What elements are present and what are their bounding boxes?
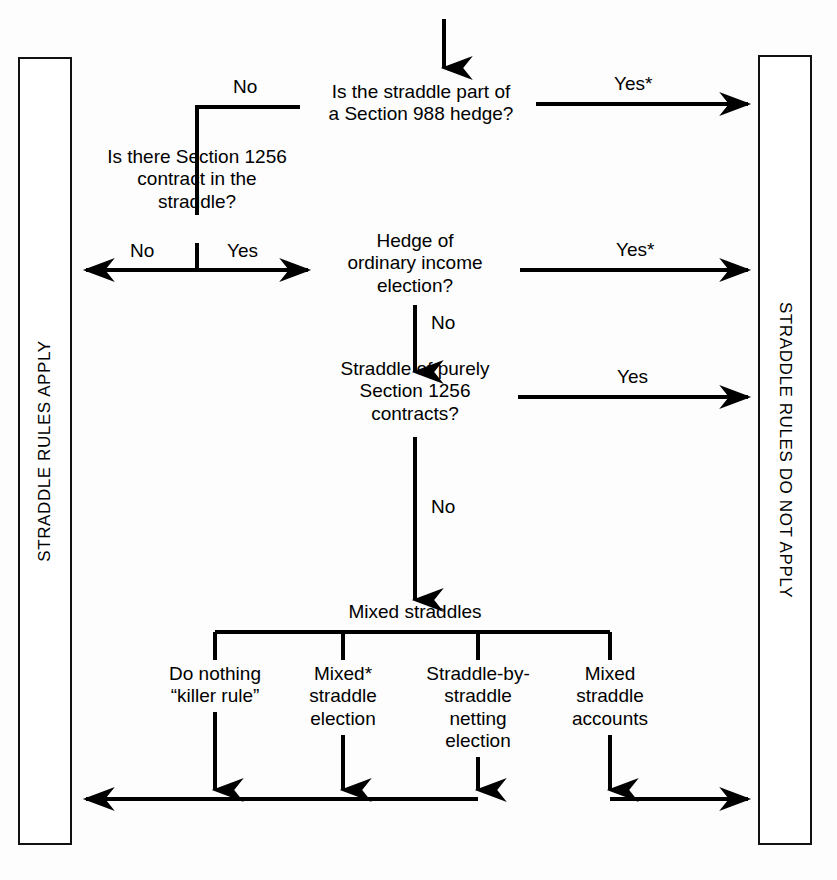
decision-section-988-hedge: Is the straddle part of a Section 988 he… bbox=[306, 81, 536, 126]
outcome-panel-straddle-rules-do-not-apply: STRADDLE RULES DO NOT APPLY bbox=[758, 55, 812, 845]
decision-section-1256-contract: Is there Section 1256 contract in the st… bbox=[82, 146, 312, 213]
leaf-mixed-straddle-accounts: Mixed straddle accounts bbox=[548, 663, 672, 730]
right-panel-label: STRADDLE RULES DO NOT APPLY bbox=[775, 302, 795, 598]
leaf-mixed-straddle-election: Mixed* straddle election bbox=[283, 663, 403, 730]
outcome-panel-straddle-rules-apply: STRADDLE RULES APPLY bbox=[18, 57, 72, 845]
edge-label-q4-yes: Yes bbox=[617, 367, 648, 388]
edge-label-q1-no: No bbox=[233, 77, 257, 98]
edge-label-q1-yes: Yes* bbox=[614, 74, 652, 95]
node-mixed-straddles: Mixed straddles bbox=[305, 601, 525, 623]
edge-label-q3-yes: Yes* bbox=[616, 240, 654, 261]
edge-label-q4-no: No bbox=[431, 497, 455, 518]
flowchart-canvas: STRADDLE RULES APPLY STRADDLE RULES DO N… bbox=[0, 0, 837, 880]
edge-label-q2-no: No bbox=[130, 241, 154, 262]
edge-label-q2-yes: Yes bbox=[227, 241, 258, 262]
left-panel-label: STRADDLE RULES APPLY bbox=[35, 340, 55, 561]
decision-purely-section-1256-straddle: Straddle of purely Section 1256 contract… bbox=[300, 358, 530, 425]
decision-ordinary-income-hedge-election: Hedge of ordinary income election? bbox=[300, 230, 530, 297]
leaf-straddle-by-straddle-netting-election: Straddle-by- straddle netting election bbox=[408, 663, 548, 753]
leaf-do-nothing-killer-rule: Do nothing “killer rule” bbox=[145, 663, 285, 708]
edge-label-q3-no: No bbox=[431, 313, 455, 334]
